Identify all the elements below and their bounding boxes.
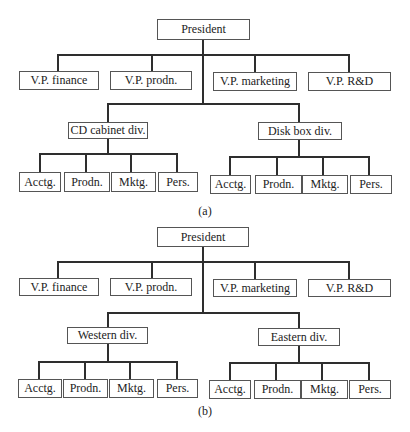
division-box-left: Western div. [67,327,148,344]
connector-right-dept-4 [368,362,370,380]
connector-division-bar [107,312,300,314]
dept-box-right-acctg: Acctg. [209,380,251,399]
vp-finance-box: V.P. finance [19,278,99,296]
connector-vp-prodn [151,261,153,278]
connector-right-dept-1 [229,362,231,380]
connector-left-dept-bar [38,361,178,363]
division-box-right: Eastern div. [258,328,340,346]
dept-box-right-pers: Pers. [349,380,391,399]
org-chart-b: President V.P. finance V.P. prodn. V.P. … [0,0,410,432]
connector-vp-bar [57,261,350,263]
connector-vp-rd [348,261,350,279]
dept-box-left-prodn: Prodn. [63,379,108,398]
dept-box-right-prodn: Prodn. [254,380,301,399]
dept-box-left-mktg: Mktg. [109,379,154,398]
connector-vp-finance [57,261,59,278]
dept-box-right-mktg: Mktg. [301,380,348,399]
connector-division-left [107,312,109,328]
vp-marketing-box: V.P. marketing [213,279,297,297]
caption-b: (b) [198,404,212,419]
connector-right-dept-3 [321,362,323,380]
connector-left-dept-1 [38,361,40,379]
connector-right-dept-2 [275,362,277,380]
vp-prodn-box: V.P. prodn. [110,278,192,296]
connector-left-div-down [107,343,109,362]
dept-box-left-pers: Pers. [157,379,198,398]
connector-right-dept-bar [229,362,370,364]
dept-box-left-acctg: Acctg. [18,379,62,398]
president-box: President [157,227,249,247]
connector-left-dept-2 [84,361,86,379]
connector-left-dept-4 [176,361,178,379]
connector-president-down [202,246,204,314]
connector-left-dept-3 [129,361,131,379]
connector-right-div-down [298,345,300,363]
connector-vp-marketing [254,261,256,279]
vp-rd-box: V.P. R&D [308,279,391,297]
connector-division-right [298,312,300,328]
